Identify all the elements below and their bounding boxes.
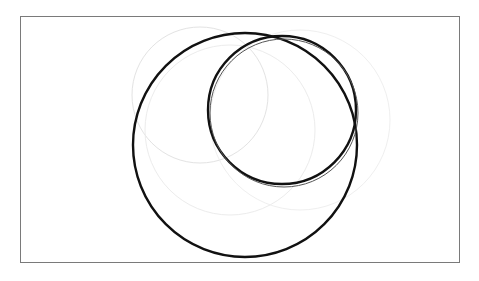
circles-canvas xyxy=(0,0,479,281)
faint-lower xyxy=(145,45,315,215)
large-circle xyxy=(133,33,357,257)
